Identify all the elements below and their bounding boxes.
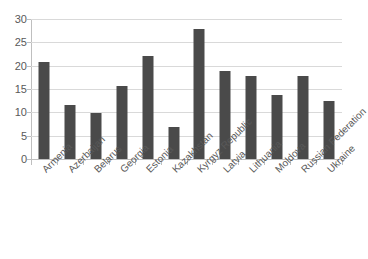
bars-layer xyxy=(31,19,342,159)
y-axis-tick-mark xyxy=(27,136,31,137)
x-axis-tick-mark xyxy=(31,160,32,165)
bar-slot xyxy=(290,19,316,159)
bar-slot xyxy=(238,19,264,159)
bar-slot xyxy=(135,19,161,159)
y-axis-tick-label: 20 xyxy=(1,61,27,72)
y-axis-tick-mark xyxy=(27,19,31,20)
y-axis-tick-mark xyxy=(27,89,31,90)
bar-slot xyxy=(264,19,290,159)
bar-slot xyxy=(57,19,83,159)
y-axis-tick-mark xyxy=(27,112,31,113)
y-axis-tick-mark xyxy=(27,42,31,43)
y-axis-tick-label: 0 xyxy=(1,154,27,165)
bar[interactable] xyxy=(38,62,49,159)
bar-slot xyxy=(31,19,57,159)
y-axis-tick-label: 15 xyxy=(1,84,27,95)
y-axis-tick-label: 5 xyxy=(1,131,27,142)
y-axis-tick-label: 30 xyxy=(1,14,27,25)
y-axis-tick-mark xyxy=(27,66,31,67)
bar-slot xyxy=(161,19,187,159)
bar-slot xyxy=(109,19,135,159)
plot-area xyxy=(31,19,342,159)
y-axis-tick-label: 25 xyxy=(1,37,27,48)
y-axis-tick-label: 10 xyxy=(1,107,27,118)
